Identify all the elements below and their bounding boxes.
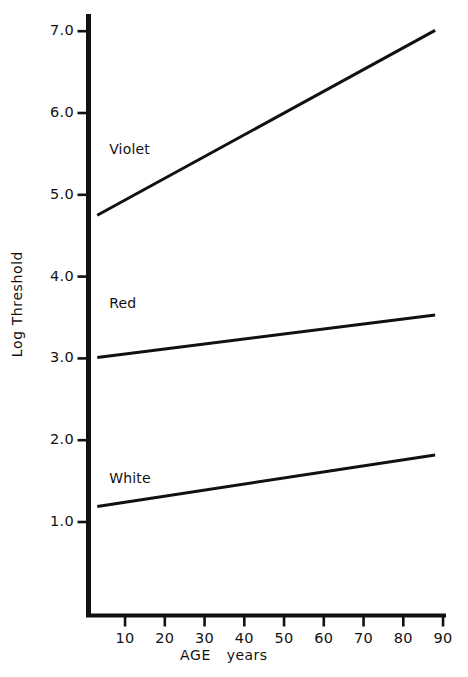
- series-label-violet: Violet: [109, 141, 150, 157]
- y-axis-title: Log Threshold: [9, 244, 25, 364]
- series-label-red: Red: [109, 295, 136, 311]
- x-axis-title: AGEyears: [180, 647, 267, 663]
- series-line-red: [97, 315, 435, 358]
- x-tick-label-60: 60: [307, 630, 341, 646]
- y-tick-label-3: 3.0: [28, 349, 74, 365]
- y-tick-label-5: 5.0: [28, 186, 74, 202]
- y-tick-label-2: 2.0: [28, 431, 74, 447]
- x-tick-label-90: 90: [426, 630, 460, 646]
- y-tick-label-6: 6.0: [28, 104, 74, 120]
- x-tick-label-80: 80: [386, 630, 420, 646]
- y-tick-label-1: 1.0: [28, 513, 74, 529]
- x-axis-ticks: [125, 617, 443, 627]
- y-tick-label-4: 4.0: [28, 268, 74, 284]
- x-tick-label-30: 30: [188, 630, 222, 646]
- x-tick-label-10: 10: [108, 630, 142, 646]
- y-tick-label-7: 7.0: [28, 22, 74, 38]
- x-tick-label-40: 40: [227, 630, 261, 646]
- line-chart: 1.02.03.04.05.06.07.0 102030405060708090…: [0, 0, 468, 677]
- x-axis-title-unit: years: [227, 647, 268, 663]
- data-series-lines: [97, 30, 435, 506]
- series-line-violet: [97, 30, 435, 215]
- x-tick-label-20: 20: [148, 630, 182, 646]
- series-label-white: White: [109, 470, 151, 486]
- axes: [86, 14, 446, 617]
- x-tick-label-70: 70: [347, 630, 381, 646]
- chart-canvas: [0, 0, 468, 677]
- x-axis-title-main: AGE: [180, 647, 211, 663]
- x-tick-label-50: 50: [267, 630, 301, 646]
